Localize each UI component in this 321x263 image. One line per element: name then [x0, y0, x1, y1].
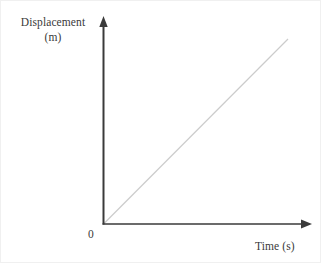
data-line-displacement: [104, 39, 289, 224]
y-axis-arrow-icon: [99, 16, 107, 27]
y-axis-label-unit: (m): [9, 30, 97, 45]
displacement-time-graph-figure: Displacement (m) Time (s) 0: [0, 0, 321, 263]
origin-label: 0: [88, 228, 94, 241]
y-axis-label-name: Displacement: [21, 16, 85, 28]
y-axis-label: Displacement (m): [9, 15, 97, 45]
x-axis-label: Time (s): [255, 239, 295, 254]
x-axis-arrow-icon: [301, 220, 312, 229]
